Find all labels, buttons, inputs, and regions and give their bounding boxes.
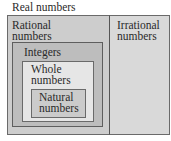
natural-label-line2: numbers xyxy=(39,103,79,114)
whole-label-line2: numbers xyxy=(31,75,71,86)
rational-label-line2: numbers xyxy=(12,31,52,42)
irrational-label-line2: numbers xyxy=(117,31,157,42)
diagram-title: Real numbers xyxy=(12,2,76,13)
integers-label: Integers xyxy=(24,47,61,58)
